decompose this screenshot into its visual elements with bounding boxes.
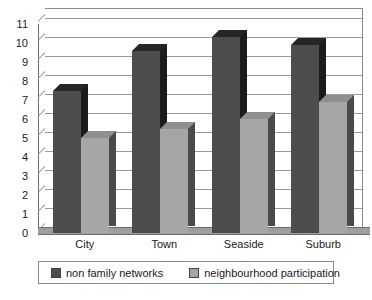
y-tick-label: 0 [8,228,28,239]
bar-town-series-0 [132,44,160,233]
bar-chart: 11109876543210 CityTownSeasideSuburb non… [0,0,372,300]
x-tick-label: Town [125,238,205,250]
y-tick-label: 6 [8,114,28,125]
bar-side-face [347,95,354,226]
legend-item-neighbourhood-participation: neighbourhood participation [189,267,340,279]
bar-front-face [53,91,81,234]
bar-city-series-0 [53,84,81,234]
x-tick-label: Suburb [284,238,364,250]
bar-town-series-1 [160,122,188,234]
bar-front-face [81,138,109,233]
legend-item-label: non family networks [66,267,163,279]
x-tick-label: Seaside [204,238,284,250]
legend-item-non-family-networks: non family networks [51,267,163,279]
legend-swatch-icon [51,268,61,278]
y-axis-line [38,24,39,233]
x-tick-label: City [45,238,125,250]
bar-front-face [132,51,160,233]
bar-front-face [319,102,347,233]
y-tick-label: 5 [8,133,28,144]
bar-city-series-1 [81,131,109,233]
y-tick-label: 9 [8,57,28,68]
y-tick-label: 8 [8,76,28,87]
bar-suburb-series-1 [319,95,347,233]
y-axis: 11109876543210 [6,0,28,300]
legend-swatch-icon [189,268,199,278]
bar-suburb-series-0 [291,38,319,233]
gridline [45,18,362,19]
y-tick-label: 10 [8,38,28,49]
y-tick-label: 11 [8,19,28,30]
legend: non family networks neighbourhood partic… [38,261,334,284]
bar-side-face [109,131,116,226]
bar-seaside-series-1 [240,112,268,233]
bar-front-face [160,129,188,234]
legend-item-label: neighbourhood participation [204,267,340,279]
y-tick-label: 2 [8,190,28,201]
y-tick-label: 3 [8,171,28,182]
bar-top-face [53,84,88,91]
bar-side-face [188,122,195,227]
bar-front-face [240,119,268,233]
bar-seaside-series-0 [212,30,240,233]
bar-front-face [212,37,240,233]
y-tick-label: 1 [8,209,28,220]
y-tick-label: 4 [8,152,28,163]
bar-side-face [268,112,275,226]
y-tick-label: 7 [8,95,28,106]
bar-front-face [291,45,319,233]
